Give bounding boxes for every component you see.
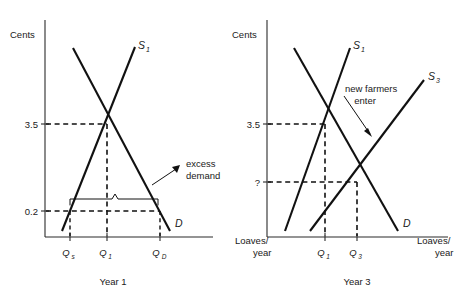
right-x-tick-label-q1-sub: 1 — [326, 253, 330, 260]
right-y-tick-label-unknown: ? — [255, 177, 260, 188]
left-x-tick-label-q1-base: Q — [99, 247, 107, 258]
right-x-axis-title-line1: Loaves/ — [417, 235, 451, 246]
new-farmers-label-line1: new farmers — [345, 83, 398, 94]
right-x-tick-label-q1-base: Q — [317, 247, 325, 258]
right-supply-curve-s3-label: S 3 — [428, 70, 440, 84]
right-demand-curve-d-label: D — [403, 217, 411, 229]
right-supply-curve-s3-label-sub: 3 — [436, 77, 440, 84]
left-x-tick-label-qd: Q D — [152, 247, 166, 260]
left-chart-caption: Year 1 — [99, 276, 126, 287]
figure-canvas: Cents Loaves/ year 3.5 0.2 Q s Q 1 — [0, 0, 465, 296]
left-supply-curve-s1-label-base: S — [138, 39, 145, 51]
right-supply-curve-s1-label-sub: 1 — [361, 46, 365, 53]
new-farmers-label-line2: enter — [354, 95, 376, 106]
left-chart: Cents Loaves/ year 3.5 0.2 Q s Q 1 — [10, 20, 271, 287]
right-x-tick-label-q3-base: Q — [349, 247, 357, 258]
left-x-tick-label-qd-sub: D — [162, 253, 167, 260]
left-demand-curve-d — [73, 48, 170, 231]
supply-demand-figure: Cents Loaves/ year 3.5 0.2 Q s Q 1 — [0, 0, 465, 296]
excess-demand-label-line1: excess — [186, 158, 216, 169]
left-y-axis-title: Cents — [10, 29, 35, 40]
left-x-axis-title-line1: Loaves/ — [235, 235, 269, 246]
left-x-tick-label-qd-base: Q — [152, 247, 160, 258]
right-x-axis-title-line2: year — [435, 247, 453, 258]
left-x-tick-label-q1-sub: 1 — [108, 253, 112, 260]
right-y-axis-title: Cents — [232, 29, 257, 40]
excess-demand-label-line2: demand — [186, 170, 220, 181]
left-supply-curve-s1 — [62, 47, 135, 231]
left-supply-curve-s1-label: S 1 — [138, 39, 150, 53]
left-x-axis-title-line2: year — [253, 247, 271, 258]
excess-demand-pointer-head — [172, 165, 180, 173]
left-x-tick-label-qs: Q s — [62, 247, 75, 260]
left-demand-curve-d-label: D — [175, 217, 183, 229]
right-chart-caption: Year 3 — [343, 276, 370, 287]
left-x-tick-label-qs-base: Q — [62, 247, 70, 258]
right-demand-curve-d — [294, 48, 398, 231]
right-supply-curve-s3-label-base: S — [428, 70, 435, 82]
right-supply-curve-s1-label: S 1 — [353, 39, 365, 53]
left-y-tick-label-02: 0.2 — [25, 206, 38, 217]
right-x-tick-label-q1: Q 1 — [317, 247, 330, 260]
left-y-tick-label-35: 3.5 — [25, 119, 38, 130]
right-x-tick-label-q3: Q 3 — [349, 247, 362, 260]
right-y-tick-label-35: 3.5 — [247, 119, 260, 130]
left-supply-curve-s1-label-sub: 1 — [146, 46, 150, 53]
left-x-tick-label-qs-sub: s — [71, 253, 75, 260]
right-x-tick-label-q3-sub: 3 — [358, 253, 362, 260]
new-farmers-pointer-head — [364, 128, 372, 137]
excess-demand-brace — [70, 194, 158, 205]
right-supply-curve-s1 — [285, 48, 350, 231]
right-supply-curve-s1-label-base: S — [353, 39, 360, 51]
left-x-tick-label-q1: Q 1 — [99, 247, 112, 260]
